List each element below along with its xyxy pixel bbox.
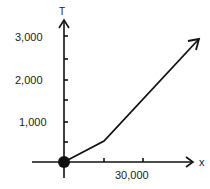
y-tick-label-2000: 2,000	[15, 75, 43, 86]
data-line	[64, 40, 198, 162]
y-tick-label-3000: 3,000	[15, 32, 43, 43]
y-axis-label: T	[59, 7, 65, 17]
x-tick-label-30000: 30,000	[115, 170, 149, 181]
origin-marker	[58, 156, 70, 168]
chart-plot	[0, 0, 210, 189]
y-tick-label-1000: 1,000	[19, 117, 47, 128]
x-axis-label: x	[199, 157, 205, 168]
